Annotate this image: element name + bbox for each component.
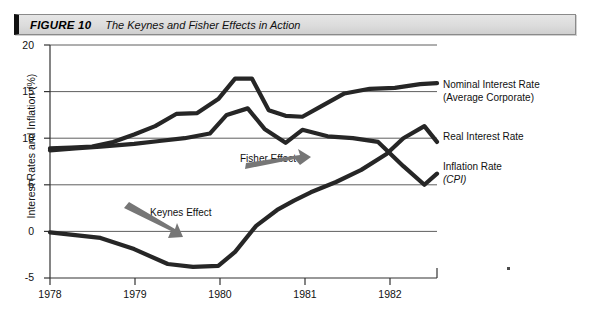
- data-series-layer: [50, 79, 437, 267]
- series-line-inflation-rate-cpi: [50, 108, 437, 184]
- gridlines: [50, 45, 437, 231]
- figure-title-text: The Keynes and Fisher Effects in Action: [105, 19, 300, 31]
- figure-number-label: FIGURE 10: [30, 19, 91, 31]
- figure-title-bar: FIGURE 10 The Keynes and Fisher Effects …: [14, 14, 576, 35]
- x-tick-marks: [50, 278, 390, 285]
- chart-container: Interest Rates and Inflation (%) 20 15 1…: [0, 36, 590, 311]
- y-tick-marks: [44, 45, 50, 278]
- plot-svg: [0, 36, 590, 311]
- fisher-effect-arrow: [245, 149, 311, 169]
- page-speck: [507, 267, 510, 270]
- annotation-arrows: [124, 149, 311, 238]
- keynes-effect-arrow: [124, 202, 183, 238]
